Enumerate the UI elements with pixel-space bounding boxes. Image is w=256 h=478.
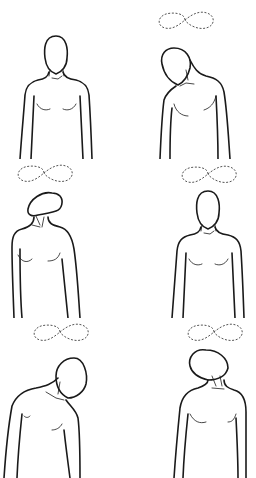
figure-eight-motion-icon [18, 165, 72, 181]
figure-eight-motion-icon [159, 12, 213, 28]
human-figure-tilt-down-icon [0, 318, 128, 478]
figure-eight-motion-icon [34, 324, 88, 340]
human-figure-neutral-icon [128, 159, 256, 318]
figure-panel-tilt-back [0, 159, 128, 318]
figure-panel-tilt-back-2 [128, 318, 256, 477]
figure-panel-tilt-down [0, 318, 128, 477]
figure-eight-motion-icon [182, 166, 236, 182]
human-figure-tilt-back-icon [0, 159, 128, 318]
human-figure-tilt-forward-icon [128, 0, 256, 159]
figure-panel-neutral-loop [128, 159, 256, 318]
figure-panel-tilt-forward [128, 0, 256, 159]
figure-panel-neutral [0, 0, 128, 159]
figure-eight-motion-icon [188, 324, 242, 340]
human-figure-tilt-back-icon [128, 318, 256, 478]
human-figure-neutral-icon [0, 0, 128, 159]
